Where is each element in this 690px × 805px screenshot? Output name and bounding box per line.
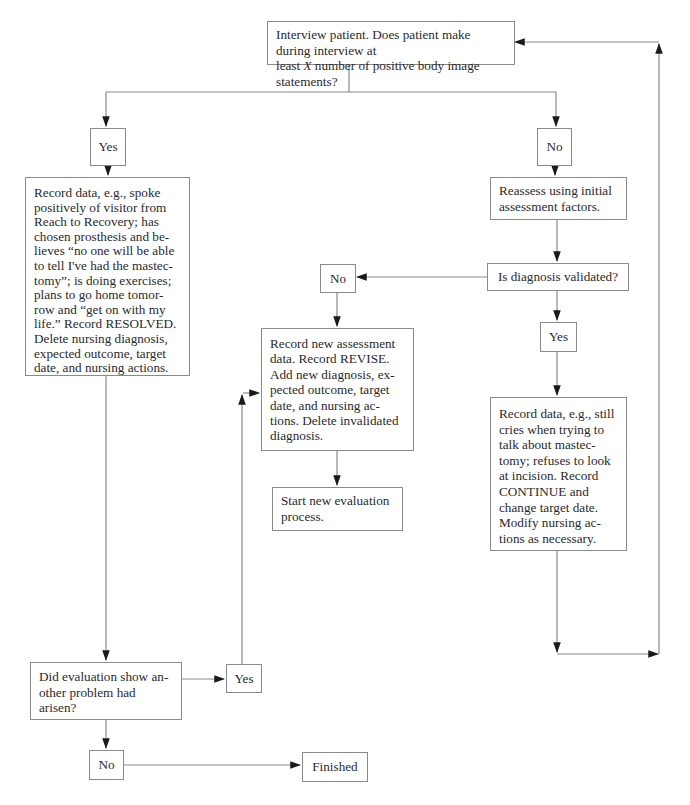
- yes-bottom-box: Yes: [226, 664, 262, 693]
- another-problem-question-box: Did evaluation show an-other problem had…: [30, 662, 182, 720]
- resolved-text: Record data, e.g., spoke positively of v…: [34, 185, 176, 375]
- no-top-box: No: [537, 128, 572, 166]
- yes-right-label: Yes: [549, 329, 568, 345]
- no-top-label: No: [546, 139, 562, 155]
- yes-top-label: Yes: [98, 139, 117, 155]
- start-interview-box: Interview patient. Does patient make dur…: [267, 21, 515, 65]
- no-middle-box: No: [320, 264, 356, 293]
- start-line-1: Interview patient. Does patient make dur…: [276, 27, 506, 58]
- start-new-evaluation-text: Start new evaluation process.: [281, 493, 389, 524]
- another-problem-question-text: Did evaluation show an-other problem had…: [39, 669, 168, 715]
- continue-text: Record data, e.g., still cries when tryi…: [499, 406, 614, 546]
- reassess-box: Reassess using initial assessment factor…: [490, 177, 627, 220]
- start-new-evaluation-box: Start new evaluation process.: [272, 487, 403, 531]
- no-bottom-label: No: [98, 757, 114, 773]
- revise-text: Record new assessment data. Record REVIS…: [270, 336, 399, 443]
- finished-box: Finished: [302, 752, 368, 782]
- validated-question-box: Is diagnosis validated?: [487, 263, 629, 291]
- revise-box: Record new assessment data. Record REVIS…: [261, 328, 414, 451]
- no-middle-label: No: [330, 271, 346, 287]
- resolved-box: Record data, e.g., spoke positively of v…: [25, 177, 190, 376]
- no-bottom-box: No: [89, 750, 124, 780]
- reassess-text: Reassess using initial assessment factor…: [499, 183, 612, 214]
- start-line-2: least X number of positive body image st…: [276, 58, 506, 89]
- finished-label: Finished: [312, 759, 357, 775]
- yes-right-box: Yes: [540, 322, 577, 352]
- yes-top-box: Yes: [90, 128, 126, 166]
- continue-box: Record data, e.g., still cries when tryi…: [490, 397, 627, 551]
- yes-bottom-label: Yes: [234, 671, 253, 687]
- validated-question-text: Is diagnosis validated?: [498, 269, 618, 285]
